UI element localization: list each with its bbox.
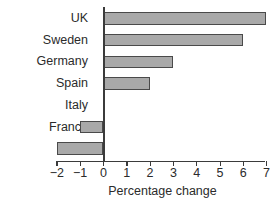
bar [103,34,243,47]
x-tick [80,161,81,166]
zero-axis-line [103,7,105,162]
bar [103,12,266,25]
x-tick [56,161,57,166]
x-tick [150,161,151,166]
x-tick-label: 7 [252,166,279,180]
bar-row [57,138,274,160]
x-tick [266,161,267,166]
x-tick [243,161,244,166]
x-tick [220,161,221,166]
bar-chart: UKSwedenGermanySpainItalyFranceNL −2−101… [0,0,279,209]
x-axis-title: Percentage change [0,184,279,198]
bar [103,56,173,69]
bar-row [57,95,274,117]
bar [103,77,150,90]
x-axis-line [57,161,266,162]
bar [57,142,104,155]
x-tick [126,161,127,166]
plot-area [103,8,273,160]
bar-row [57,51,274,73]
bar-row [57,8,274,30]
bar-row [57,73,274,95]
bar-row [57,117,274,139]
x-tick [173,161,174,166]
x-tick [103,161,104,166]
x-tick [196,161,197,166]
bar-row [57,30,274,52]
bar [80,121,103,134]
